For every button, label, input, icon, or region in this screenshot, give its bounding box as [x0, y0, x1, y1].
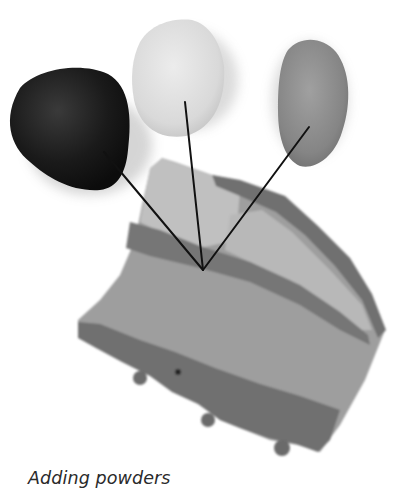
dark-pebble — [10, 68, 130, 190]
caption: Adding powders — [28, 468, 171, 488]
mid-pebble — [278, 40, 348, 167]
light-pebble — [132, 20, 224, 137]
clay-slab — [78, 158, 386, 456]
page: Adding powders — [0, 0, 396, 501]
illustration — [0, 0, 396, 501]
